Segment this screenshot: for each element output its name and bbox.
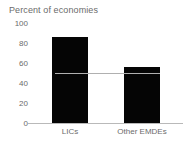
x-tick-label-other-emdes: Other EMDEs [117,127,166,136]
chart-title: Percent of economies [9,5,98,16]
plot-area: 100 80 60 40 20 0 LICs Other EMDEs [32,24,183,124]
reference-line [55,73,160,74]
y-tick-label-60: 60 [19,60,28,68]
bar-chart: Percent of economies 100 80 60 40 20 0 L… [0,0,191,145]
x-tick-label-lics: LICs [62,127,78,136]
x-axis-line [28,123,183,124]
y-tick-label-0: 0 [24,120,28,128]
bar-lics [52,37,88,123]
y-tick-label-100: 100 [15,20,28,28]
bar-other-emdes [124,67,160,123]
y-tick-label-20: 20 [19,100,28,108]
y-tick-label-80: 80 [19,40,28,48]
y-tick-label-40: 40 [19,80,28,88]
